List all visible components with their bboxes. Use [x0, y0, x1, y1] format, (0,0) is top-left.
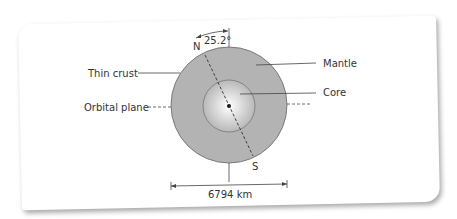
orbital-plane-label: Orbital plane — [84, 102, 149, 113]
diameter-line — [171, 184, 287, 186]
north-label: N — [193, 41, 200, 52]
arrow-left-icon — [171, 184, 176, 188]
thin-crust-label: Thin crust — [87, 68, 138, 79]
tilt-arrow-icon — [223, 29, 228, 33]
diameter-label: 6794 km — [208, 189, 252, 200]
tilt-label: 25.2° — [204, 35, 231, 46]
tilt-arrow-icon — [196, 34, 201, 38]
arrow-right-icon — [282, 182, 287, 186]
mars-interior-diagram: N 25.2° S Thin crust Orbital plane Mantl… — [0, 0, 457, 219]
mantle-label: Mantle — [323, 58, 357, 69]
core-label: Core — [323, 87, 346, 98]
south-label: S — [252, 161, 258, 172]
